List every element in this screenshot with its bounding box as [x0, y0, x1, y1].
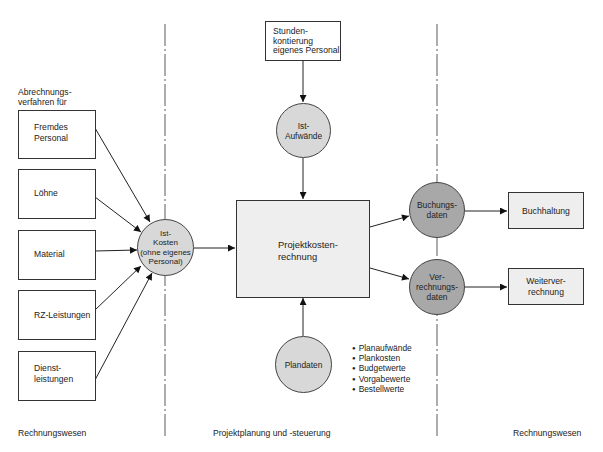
box-projektkostenrechnung: Projektkosten- rechnung [236, 200, 370, 298]
box-label: Löhne [34, 188, 58, 199]
node-label: Buchungs- daten [417, 200, 457, 220]
box-stundenkontierung: Stunden- kontierung eigenes Personal [265, 21, 341, 61]
list-item: Planaufwände [352, 343, 412, 353]
box-rz-leistungen: RZ-Leistungen [18, 290, 96, 340]
node-label: Ist- Kosten (ohne eigenes Personal) [140, 229, 191, 267]
box-label: Dienst- leistungen [34, 363, 73, 384]
node-buchungsdaten: Buchungs- daten [409, 182, 465, 238]
node-ist-kosten: Ist- Kosten (ohne eigenes Personal) [137, 219, 194, 276]
box-material: Material [18, 230, 96, 280]
box-buchhaltung: Buchhaltung [508, 192, 584, 229]
box-label: Stunden- kontierung eigenes Personal [273, 27, 339, 56]
zone-label-left: Rechnungswesen [18, 428, 86, 438]
box-label: Fremdes Personal [34, 122, 68, 143]
arrow-material [95, 250, 137, 251]
plandaten-items-list: Planaufwände Plankosten Budgetwerte Vorg… [352, 343, 412, 394]
arrow-rz-leistungen [95, 266, 141, 310]
arrow-fremdes-personal [95, 128, 150, 222]
arrow-loehne [95, 197, 141, 232]
box-label: Material [34, 249, 65, 260]
list-item: Bestellwerte [352, 384, 412, 394]
zone-label-right: Rechnungswesen [513, 428, 581, 438]
node-label: Ver- rechnungs- daten [416, 272, 458, 302]
node-label: Plandaten [285, 360, 323, 370]
arrow-pkr-buchungsdaten [370, 216, 409, 227]
box-fremdes-personal: Fremdes Personal [18, 110, 96, 159]
node-verrechnungsdaten: Ver- rechnungs- daten [409, 259, 465, 315]
node-plandaten: Plandaten [275, 336, 332, 393]
box-label: Buchhaltung [509, 206, 583, 217]
box-label: Weiterver- rechnung [509, 276, 583, 297]
box-label: Projektkosten- rechnung [278, 239, 338, 262]
box-weiterverrechnung: Weiterver- rechnung [508, 268, 584, 305]
zone-label-center: Projektplanung und -steuerung [213, 428, 331, 438]
arrow-pkr-verrechnungsdaten [370, 268, 409, 279]
node-ist-aufwaende: Ist- Aufwände [276, 103, 331, 158]
left-heading: Abrechnungs- verfahren für [18, 87, 72, 107]
list-item: Budgetwerte [352, 363, 412, 373]
box-loehne: Löhne [18, 169, 96, 219]
node-label: Ist- Aufwände [285, 121, 322, 141]
arrow-dienstleistungen [95, 273, 152, 380]
list-item: Vorgabewerte [352, 374, 412, 384]
list-item: Plankosten [352, 353, 412, 363]
box-label: RZ-Leistungen [34, 310, 90, 321]
box-dienstleistungen: Dienst- leistungen [18, 351, 96, 401]
